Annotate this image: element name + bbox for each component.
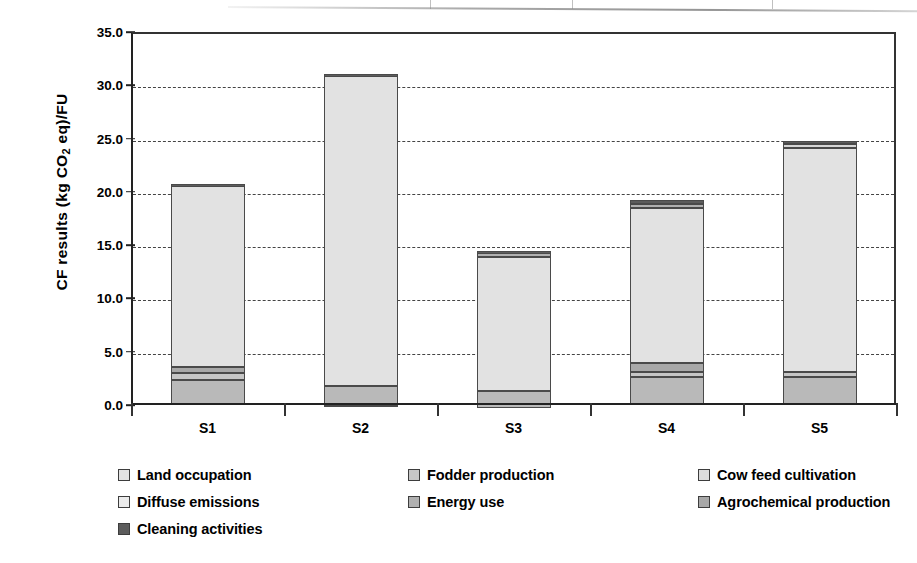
bar-segment xyxy=(324,75,398,386)
x-axis-line xyxy=(131,403,898,405)
legend-item-label: Fodder production xyxy=(427,467,554,483)
bar-segment xyxy=(783,377,857,405)
y-axis-tick-label: 10.0 xyxy=(65,291,123,306)
legend-item[interactable]: Cow feed cultivation xyxy=(698,467,856,483)
x-axis-tick-label: S2 xyxy=(352,420,369,436)
bar-segment xyxy=(324,74,398,77)
x-axis-tick-mark xyxy=(743,403,745,416)
bar-segment xyxy=(630,377,704,405)
bar-segment xyxy=(630,372,704,377)
y-axis-tick-label: 5.0 xyxy=(65,344,123,359)
legend-item-label: Cleaning activities xyxy=(137,521,262,537)
y-axis-title-before: CF results (kg CO xyxy=(53,155,70,291)
legend-swatch-icon xyxy=(118,496,130,508)
legend-item[interactable]: Diffuse emissions xyxy=(118,494,259,510)
chart-legend: Land occupationFodder productionCow feed… xyxy=(118,467,908,559)
x-axis-tick-mark xyxy=(437,403,439,416)
y-axis-tick-label: 35.0 xyxy=(65,25,123,40)
x-axis-tick-mark xyxy=(590,403,592,416)
legend-item[interactable]: Land occupation xyxy=(118,467,252,483)
legend-item-label: Diffuse emissions xyxy=(137,494,259,510)
legend-swatch-icon xyxy=(118,469,130,481)
bar-segment xyxy=(477,391,551,409)
legend-swatch-icon xyxy=(698,469,710,481)
bar-group[interactable] xyxy=(284,32,437,405)
legend-item[interactable]: Energy use xyxy=(408,494,504,510)
bar-segment xyxy=(171,184,245,187)
legend-item-label: Energy use xyxy=(427,494,504,510)
stacked-bar[interactable] xyxy=(477,32,551,405)
y-axis-tick-label: 15.0 xyxy=(65,238,123,253)
x-axis-tick-label: S5 xyxy=(811,420,828,436)
legend-item[interactable]: Cleaning activities xyxy=(118,521,262,537)
bar-segment xyxy=(477,257,551,391)
y-axis-tick-label: 30.0 xyxy=(65,78,123,93)
bar-segment xyxy=(783,141,857,144)
bar-segment xyxy=(171,186,245,367)
y-axis-tick-label: 25.0 xyxy=(65,131,123,146)
legend-swatch-icon xyxy=(118,523,130,535)
bar-segment xyxy=(171,367,245,373)
legend-swatch-icon xyxy=(408,469,420,481)
y-axis-title-subscript: 2 xyxy=(60,148,72,154)
bar-group[interactable] xyxy=(743,32,896,405)
x-axis-tick-mark xyxy=(131,403,133,416)
bar-group[interactable] xyxy=(131,32,284,405)
bar-segment xyxy=(783,148,857,373)
stacked-bar[interactable] xyxy=(783,32,857,405)
bar-segment xyxy=(477,251,551,254)
x-axis-tick-mark xyxy=(284,403,286,416)
legend-item-label: Cow feed cultivation xyxy=(717,467,856,483)
bar-segment xyxy=(630,208,704,364)
legend-swatch-icon xyxy=(408,496,420,508)
legend-item[interactable]: Fodder production xyxy=(408,467,554,483)
legend-swatch-icon xyxy=(698,496,710,508)
bar-series-layer xyxy=(131,32,896,405)
y-axis-tick-label: 20.0 xyxy=(65,184,123,199)
bar-segment xyxy=(171,380,245,405)
legend-item[interactable]: Agrochemical production xyxy=(698,494,890,510)
stacked-bar[interactable] xyxy=(171,32,245,405)
bar-segment xyxy=(630,200,704,204)
bar-group[interactable] xyxy=(590,32,743,405)
bar-group[interactable] xyxy=(437,32,590,405)
bar-segment xyxy=(783,372,857,377)
bar-segment xyxy=(783,144,857,147)
bar-segment xyxy=(171,373,245,380)
x-axis-tick-label: S3 xyxy=(505,420,522,436)
x-axis-tick-label: S1 xyxy=(199,420,216,436)
x-axis-tick-label: S4 xyxy=(658,420,675,436)
x-axis-tick-mark xyxy=(896,403,898,416)
y-axis-tick-label: 0.0 xyxy=(65,398,123,413)
stacked-bar[interactable] xyxy=(630,32,704,405)
legend-item-label: Agrochemical production xyxy=(717,494,890,510)
bar-segment xyxy=(630,363,704,372)
stacked-bar[interactable] xyxy=(324,32,398,405)
bar-segment xyxy=(630,204,704,208)
legend-item-label: Land occupation xyxy=(137,467,252,483)
